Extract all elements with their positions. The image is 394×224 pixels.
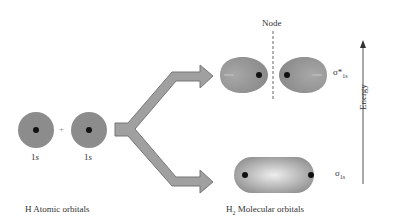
- orbital-label-letter: s: [89, 152, 93, 162]
- bonding-subscript: 1s: [340, 174, 345, 180]
- caption-rest: Molecular orbitals: [236, 204, 304, 214]
- energy-axis: [360, 40, 366, 184]
- atomic-orbital-left: [18, 112, 54, 148]
- sigma-star-symbol: σ*: [333, 67, 342, 77]
- atomic-orbital-right: [71, 112, 107, 148]
- diagram-graphics: [0, 0, 394, 224]
- orbital-label-letter: s: [36, 152, 40, 162]
- bonding-label: σ1s: [335, 168, 345, 180]
- node-label: Node: [262, 18, 282, 28]
- orbital-right-label: 1s: [84, 152, 92, 162]
- atomic-orbitals-caption: H Atomic orbitals: [25, 204, 90, 214]
- antibonding-label: σ*1s: [333, 67, 348, 79]
- molecular-orbitals-caption: H2 Molecular orbitals: [226, 204, 304, 216]
- energy-axis-label: Energy: [358, 84, 368, 110]
- antibonding-subscript: 1s: [342, 73, 347, 79]
- bonding-orbital: [234, 157, 314, 193]
- plus-sign: +: [59, 124, 64, 134]
- orbital-left-label: 1s: [31, 152, 39, 162]
- splitting-arrow: [115, 65, 213, 193]
